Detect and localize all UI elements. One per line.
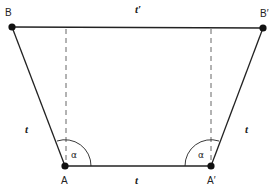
label-b-prime: B′ [260,8,269,19]
label-a: A [61,175,68,186]
trapezoid-diagram: B B′ A A′ t′ t t t α α [0,0,278,187]
label-edge-bottom: t [135,174,139,186]
label-edge-left: t [25,123,29,135]
edge-right [211,28,263,166]
vertex-a-prime [207,162,214,169]
label-angle-a: α [71,150,77,160]
vertex-a [61,162,68,169]
label-a-prime: A′ [207,175,216,186]
vertex-b-prime [259,24,266,31]
label-b: B [5,7,12,18]
label-edge-top: t′ [135,3,141,15]
edge-top [12,27,263,28]
vertex-b [8,23,15,30]
label-angle-a-prime: α [198,150,204,160]
label-edge-right: t [245,123,249,135]
edge-left [12,27,65,166]
